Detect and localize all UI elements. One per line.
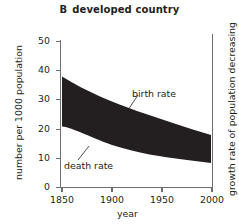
y-tick-label-10: 10: [28, 153, 50, 162]
x-tick-label-1900: 1900: [92, 195, 132, 204]
y-axis-label: number per 1000 population: [13, 45, 24, 180]
x-tick-label-1850: 1850: [42, 195, 82, 204]
y-tick-label-0: 0: [28, 182, 50, 191]
death-rate-leader-line: [78, 146, 89, 160]
death-rate-annotation: death rate: [64, 160, 113, 171]
y-tick-label-20: 20: [28, 124, 50, 133]
y-tick-label-50: 50: [28, 36, 50, 45]
x-axis-label: year: [117, 209, 138, 218]
x-tick-label-2000: 2000: [192, 195, 232, 204]
figure-panel-b: Bdeveloped country 50 40 30 20 10 0 1850…: [0, 0, 239, 224]
x-tick-label-1950: 1950: [142, 195, 182, 204]
right-axis-label: growth rate of population decreasing: [226, 22, 237, 196]
y-tick-label-30: 30: [28, 94, 50, 103]
y-tick-label-40: 40: [28, 65, 50, 74]
birth-rate-annotation: birth rate: [132, 88, 176, 99]
